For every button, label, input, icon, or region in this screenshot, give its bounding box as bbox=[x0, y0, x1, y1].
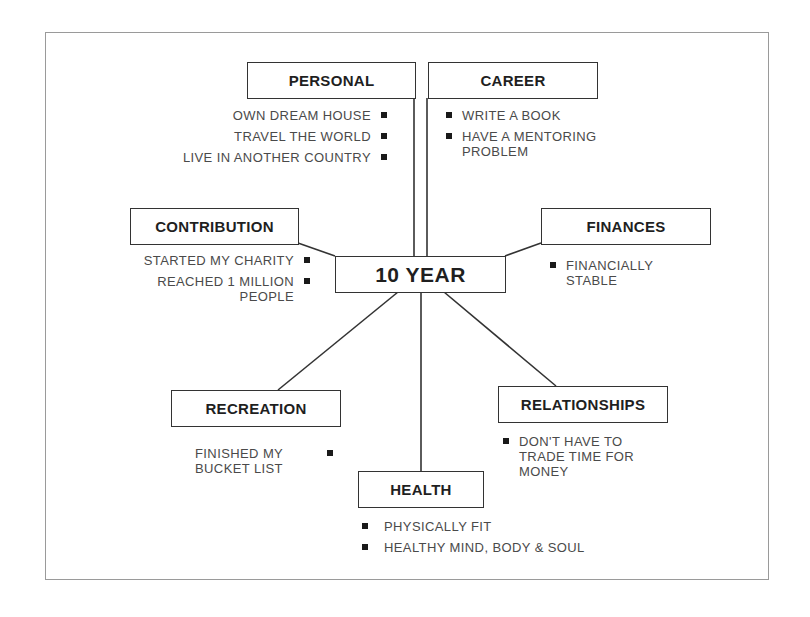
connector-finances bbox=[505, 243, 541, 256]
bullet-icon bbox=[327, 450, 333, 456]
branch-box-personal: PERSONAL bbox=[247, 62, 416, 99]
branch-box-recreation: RECREATION bbox=[171, 390, 341, 427]
list-item: HEALTHY MIND, BODY & SOUL bbox=[362, 540, 642, 555]
bullet-icon bbox=[381, 154, 387, 160]
branch-label-recreation: RECREATION bbox=[205, 400, 306, 417]
branch-items-relationships: DON'T HAVE TO TRADE TIME FOR MONEY bbox=[503, 434, 653, 485]
bullet-icon bbox=[304, 257, 310, 263]
branch-items-career: WRITE A BOOK HAVE A MENTORING PROBLEM bbox=[446, 108, 621, 165]
list-item: LIVE IN ANOTHER COUNTRY bbox=[127, 150, 387, 165]
branch-label-career: CAREER bbox=[480, 72, 545, 89]
bullet-icon bbox=[446, 133, 452, 139]
branch-label-finances: FINANCES bbox=[586, 218, 665, 235]
bullet-icon bbox=[446, 112, 452, 118]
list-item: PHYSICALLY FIT bbox=[362, 519, 642, 534]
branch-box-contribution: CONTRIBUTION bbox=[130, 208, 299, 245]
branch-label-relationships: RELATIONSHIPS bbox=[521, 396, 645, 413]
list-item: TRAVEL THE WORLD bbox=[127, 129, 387, 144]
list-item: STARTED MY CHARITY bbox=[90, 253, 310, 268]
list-item: FINANCIALLY STABLE bbox=[550, 258, 690, 288]
bullet-icon bbox=[362, 544, 368, 550]
bullet-icon bbox=[381, 112, 387, 118]
connector-relationships bbox=[444, 292, 556, 386]
bullet-icon bbox=[381, 133, 387, 139]
list-item: HAVE A MENTORING PROBLEM bbox=[446, 129, 621, 159]
branch-box-relationships: RELATIONSHIPS bbox=[498, 386, 668, 423]
branch-items-finances: FINANCIALLY STABLE bbox=[550, 258, 690, 294]
branch-box-health: HEALTH bbox=[358, 471, 484, 508]
branch-items-contribution: STARTED MY CHARITY REACHED 1 MILLION PEO… bbox=[90, 253, 310, 310]
list-item: OWN DREAM HOUSE bbox=[127, 108, 387, 123]
branch-items-health: PHYSICALLY FIT HEALTHY MIND, BODY & SOUL bbox=[362, 519, 642, 561]
branch-items-personal: OWN DREAM HOUSE TRAVEL THE WORLD LIVE IN… bbox=[127, 108, 387, 171]
list-item: REACHED 1 MILLION PEOPLE bbox=[124, 274, 310, 304]
branch-items-recreation: FINISHED MY BUCKET LIST bbox=[195, 446, 333, 482]
branch-box-finances: FINANCES bbox=[541, 208, 711, 245]
center-label: 10 YEAR bbox=[375, 263, 466, 287]
branch-label-contribution: CONTRIBUTION bbox=[155, 218, 274, 235]
list-item: WRITE A BOOK bbox=[446, 108, 621, 123]
bullet-icon bbox=[304, 278, 310, 284]
list-item: FINISHED MY BUCKET LIST bbox=[195, 446, 333, 476]
bullet-icon bbox=[362, 523, 368, 529]
branch-box-career: CAREER bbox=[428, 62, 598, 99]
center-node: 10 YEAR bbox=[335, 256, 506, 293]
bullet-icon bbox=[550, 262, 556, 268]
bullet-icon bbox=[503, 438, 509, 444]
list-item: DON'T HAVE TO TRADE TIME FOR MONEY bbox=[503, 434, 653, 479]
branch-label-personal: PERSONAL bbox=[289, 72, 375, 89]
branch-label-health: HEALTH bbox=[390, 481, 452, 498]
